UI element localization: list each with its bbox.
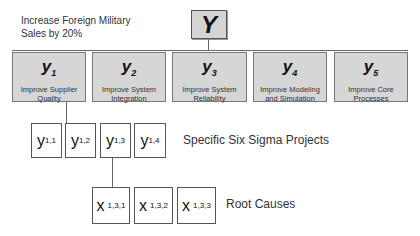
level3-node-x131: x1,3,1	[92, 187, 130, 224]
level2-node-y11: y1,1	[31, 123, 62, 158]
goal-text: Increase Foreign Military Sales by 20%	[21, 14, 130, 40]
level1-node-y3: y3 Improve SystemReliability	[172, 52, 247, 102]
level3-node-x132: x1,3,2	[134, 187, 173, 224]
level2-node-y13: y1,3	[100, 123, 131, 158]
top-y-node: Y	[191, 10, 227, 39]
connector-top-vertical	[208, 38, 209, 50]
connector-level1-horizontal	[12, 50, 408, 51]
node-symbol: y4	[283, 57, 297, 83]
node-label: Improve CoreProcesses	[348, 85, 393, 103]
top-y-symbol: Y	[201, 11, 217, 39]
connector-y13-to-level3	[112, 158, 113, 187]
level1-node-y5: y5 Improve CoreProcesses	[334, 52, 408, 102]
node-symbol: y1	[42, 57, 56, 83]
node-label: Improve SystemReliability	[182, 85, 236, 103]
node-label: Improve SystemIntegration	[102, 85, 156, 103]
connector-y1-to-level2	[66, 102, 67, 123]
level1-node-y1: y1 Improve SupplierQuality	[12, 52, 86, 102]
level2-node-y14: y1,4	[134, 123, 166, 158]
level1-node-y4: y4 Improve Modelingand Simulation	[253, 52, 327, 102]
goal-line-2: Sales by 20%	[21, 27, 130, 40]
level3-node-x133: x1,3,3	[177, 187, 216, 224]
level1-node-y2: y2 Improve SystemIntegration	[92, 52, 166, 102]
node-symbol: y5	[364, 57, 378, 83]
node-label: Improve Modelingand Simulation	[260, 85, 320, 103]
goal-line-1: Increase Foreign Military	[21, 14, 130, 27]
node-symbol: y2	[122, 57, 136, 83]
level2-node-y12: y1,2	[65, 123, 96, 158]
level2-caption: Specific Six Sigma Projects	[183, 133, 329, 147]
node-symbol: y3	[202, 57, 216, 83]
node-label: Improve SupplierQuality	[21, 85, 78, 103]
level3-caption: Root Causes	[226, 197, 295, 211]
